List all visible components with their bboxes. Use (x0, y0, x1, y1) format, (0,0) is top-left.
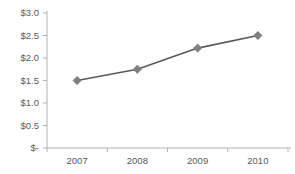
line-chart: $-$0.5$1.0$1.5$2.0$2.5$3.020072008200920… (0, 0, 295, 174)
y-axis-tick-label: $1.0 (21, 97, 40, 108)
x-axis-tick-label: 2010 (247, 155, 268, 166)
chart-canvas: $-$0.5$1.0$1.5$2.0$2.5$3.020072008200920… (0, 0, 295, 174)
y-axis-tick-label: $1.5 (21, 75, 40, 86)
y-axis-tick-label: $3.0 (21, 7, 40, 18)
series-line (77, 36, 258, 81)
x-axis-tick-label: 2007 (67, 155, 88, 166)
data-point-marker (193, 44, 201, 52)
y-axis-tick-label: $2.0 (21, 52, 40, 63)
y-axis-tick-label: $2.5 (21, 30, 40, 41)
x-axis-tick-label: 2008 (127, 155, 148, 166)
data-point-marker (133, 65, 141, 73)
y-axis-tick-label: $- (31, 142, 39, 153)
data-point-marker (73, 76, 81, 84)
x-axis-tick-label: 2009 (187, 155, 208, 166)
data-point-marker (254, 31, 262, 39)
y-axis-tick-label: $0.5 (21, 120, 40, 131)
